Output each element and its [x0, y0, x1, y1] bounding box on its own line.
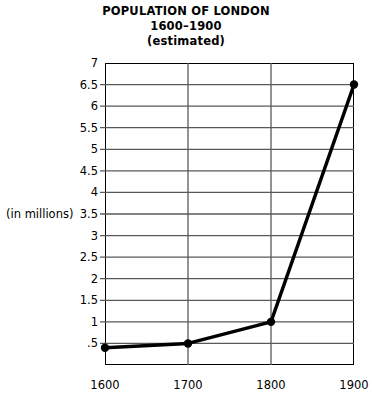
- x-tick-label-1800: 1800: [256, 379, 285, 391]
- x-tick-label-1700: 1700: [173, 379, 202, 391]
- x-tick-label-1900: 1900: [339, 379, 368, 391]
- x-tick-label-1600: 1600: [90, 379, 119, 391]
- x-axis-tick-labels: 1600170018001900: [0, 0, 372, 403]
